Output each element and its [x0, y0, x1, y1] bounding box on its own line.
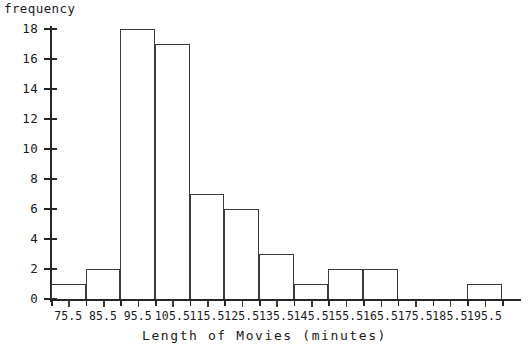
- x-tick-boundary-10: [398, 299, 400, 306]
- x-tick-boundary-5: [224, 299, 226, 306]
- x-tick-75.5: [68, 300, 70, 307]
- bar-135.5: [259, 254, 294, 299]
- x-tick-label-165.5: 165.5: [363, 310, 398, 322]
- bar-105.5: [155, 44, 190, 299]
- x-tick-195.5: [485, 300, 487, 307]
- x-tick-label-95.5: 95.5: [124, 310, 152, 322]
- x-tick-label-85.5: 85.5: [89, 310, 117, 322]
- y-tick-label-0: 0: [4, 293, 38, 306]
- y-tick-label-16: 16: [4, 53, 38, 66]
- x-tick-165.5: [381, 300, 383, 307]
- bar-195.5: [467, 284, 502, 299]
- x-tick-185.5: [450, 300, 452, 307]
- plot-area: [50, 29, 520, 299]
- y-tick-label-6: 6: [4, 203, 38, 216]
- x-tick-label-195.5: 195.5: [467, 310, 502, 322]
- x-tick-label-75.5: 75.5: [54, 310, 82, 322]
- x-tick-boundary-0: [51, 299, 53, 306]
- x-tick-label-115.5: 115.5: [190, 310, 225, 322]
- histogram-chart: frequency 024681012141618 75.585.595.510…: [0, 0, 529, 351]
- x-tick-145.5: [311, 300, 313, 307]
- x-tick-label-125.5: 125.5: [224, 310, 259, 322]
- x-tick-label-145.5: 145.5: [294, 310, 329, 322]
- x-tick-boundary-7: [294, 299, 296, 306]
- x-tick-95.5: [138, 300, 140, 307]
- bar-155.5: [328, 269, 363, 299]
- bar-115.5: [190, 194, 225, 299]
- bar-165.5: [363, 269, 398, 299]
- bar-145.5: [294, 284, 329, 299]
- x-tick-85.5: [103, 300, 105, 307]
- bar-75.5: [51, 284, 86, 299]
- x-tick-boundary-11: [433, 299, 435, 306]
- x-tick-boundary-2: [120, 299, 122, 306]
- x-tick-155.5: [346, 300, 348, 307]
- y-tick-label-12: 12: [4, 113, 38, 126]
- y-tick-label-18: 18: [4, 23, 38, 36]
- x-tick-label-175.5: 175.5: [398, 310, 433, 322]
- x-tick-boundary-4: [190, 299, 192, 306]
- x-tick-115.5: [207, 300, 209, 307]
- y-tick-label-10: 10: [4, 143, 38, 156]
- x-tick-boundary-1: [86, 299, 88, 306]
- x-tick-125.5: [242, 300, 244, 307]
- bar-85.5: [86, 269, 121, 299]
- y-axis-title: frequency: [4, 1, 75, 16]
- x-tick-boundary-6: [259, 299, 261, 306]
- x-tick-175.5: [415, 300, 417, 307]
- bar-125.5: [224, 209, 259, 299]
- x-tick-boundary-3: [155, 299, 157, 306]
- y-tick-label-2: 2: [4, 263, 38, 276]
- x-tick-boundary-12: [467, 299, 469, 306]
- y-tick-label-4: 4: [4, 233, 38, 246]
- y-tick-label-14: 14: [4, 83, 38, 96]
- bar-95.5: [120, 29, 155, 299]
- x-tick-105.5: [172, 300, 174, 307]
- x-tick-boundary-8: [328, 299, 330, 306]
- x-tick-label-135.5: 135.5: [259, 310, 294, 322]
- x-tick-label-185.5: 185.5: [432, 310, 467, 322]
- x-axis-title: Length of Movies (minutes): [0, 328, 529, 343]
- y-tick-label-8: 8: [4, 173, 38, 186]
- x-tick-label-155.5: 155.5: [328, 310, 363, 322]
- x-tick-label-105.5: 105.5: [155, 310, 190, 322]
- x-tick-135.5: [276, 300, 278, 307]
- x-tick-boundary-9: [363, 299, 365, 306]
- x-tick-boundary-13: [502, 299, 504, 306]
